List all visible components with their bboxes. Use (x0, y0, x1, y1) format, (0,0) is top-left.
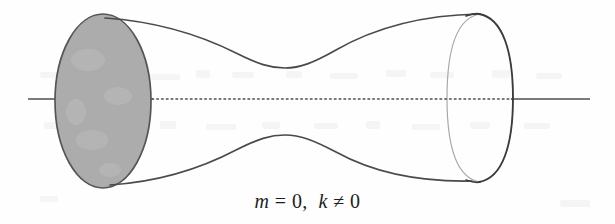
left-disk-cap (55, 14, 151, 188)
caption-var-k: k (319, 190, 328, 212)
figure-caption: m = 0, k ≠ 0 (0, 188, 615, 214)
right-end-back-arc (447, 14, 480, 182)
caption-comma: , (302, 190, 318, 212)
caption-not-equals: ≠ (328, 190, 350, 212)
caption-var-m: m (255, 190, 270, 212)
surface-profile-top (105, 14, 479, 68)
caption-equals: = (269, 190, 291, 212)
caption-zero-two: 0 (350, 190, 360, 212)
right-end-front-arc (479, 14, 513, 182)
caption-zero-one: 0 (292, 190, 302, 212)
figure-container: m = 0, k ≠ 0 (0, 0, 615, 224)
surface-profile-bottom (110, 135, 472, 185)
